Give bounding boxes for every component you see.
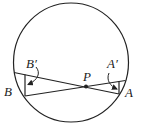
label-b-prime: B′ — [26, 56, 37, 71]
arrow-a-prime-icon — [108, 73, 117, 89]
label-b: B — [4, 84, 12, 99]
chord-line-from-b — [25, 81, 126, 97]
label-a-prime: A′ — [106, 56, 118, 71]
point-p-dot — [84, 85, 88, 89]
circle-chord-diagram: B′ B P A′ A — [0, 0, 141, 133]
label-p: P — [82, 69, 91, 84]
label-a: A — [124, 85, 133, 100]
